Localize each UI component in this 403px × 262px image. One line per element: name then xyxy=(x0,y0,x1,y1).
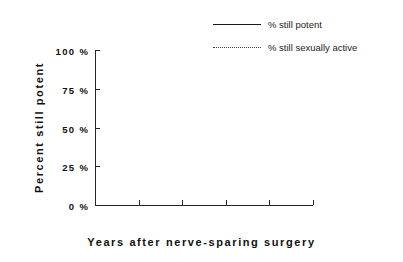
y-axis-tick-label: 25 % xyxy=(62,162,88,173)
x-axis-tick: 2 xyxy=(139,200,140,205)
x-axis-tick: 1 0 xyxy=(313,200,314,205)
x-axis-line xyxy=(95,205,313,206)
y-axis-tick: 25 % xyxy=(95,166,100,167)
x-axis-tick: 8 xyxy=(269,200,270,205)
legend-swatch-solid-line-icon xyxy=(213,24,261,25)
x-axis-tick: 0 xyxy=(95,200,96,205)
y-axis-tick-label: 100 % xyxy=(55,46,88,57)
chart-figure: % still potent % still sexually active 1… xyxy=(0,0,403,262)
plot-area: 100 % 75 % 50 % 25 % 0 % 0 2 4 6 8 xyxy=(95,50,313,205)
y-axis-tick: 0 % xyxy=(95,205,100,206)
y-axis-tick-label: 75 % xyxy=(62,84,88,95)
legend-swatch-dotted-line-icon xyxy=(213,47,261,48)
y-axis-tick-label: 50 % xyxy=(62,123,88,134)
x-axis-title: Years after nerve-sparing surgery xyxy=(0,236,403,248)
legend-label-percent-still-potent: % still potent xyxy=(268,18,322,32)
y-axis-tick: 75 % xyxy=(95,89,100,90)
x-axis-tick: 4 xyxy=(182,200,183,205)
y-axis-tick-label: 0 % xyxy=(69,201,88,212)
x-axis-tick: 6 xyxy=(226,200,227,205)
y-axis-tick: 100 % xyxy=(95,50,100,51)
y-axis-title: Percent still potent xyxy=(30,50,48,205)
y-axis-tick: 50 % xyxy=(95,128,100,129)
data-series-layer xyxy=(95,50,313,205)
